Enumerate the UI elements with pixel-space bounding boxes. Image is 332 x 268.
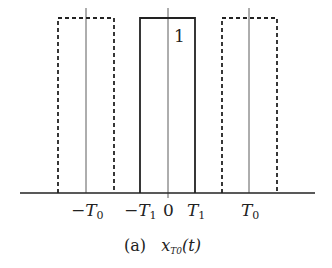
caption-func: x <box>161 236 170 255</box>
tick-neg-T0: −T0 <box>71 202 104 221</box>
caption-label: (a) <box>124 236 146 255</box>
tick-zero: 0 <box>163 202 174 219</box>
amplitude-label: 1 <box>174 28 185 45</box>
pulse-right-dashed <box>222 18 277 193</box>
tick-T0: T0 <box>241 202 259 221</box>
caption-arg: (t) <box>182 236 201 255</box>
pulse-center-solid <box>140 18 195 193</box>
pulse-train-diagram <box>0 0 332 268</box>
tick-T1: T1 <box>187 202 205 221</box>
caption-sub: T0 <box>170 246 182 256</box>
figure-caption: (a) xT0(t) <box>124 238 201 256</box>
tick-neg-T1: −T1 <box>124 202 157 221</box>
